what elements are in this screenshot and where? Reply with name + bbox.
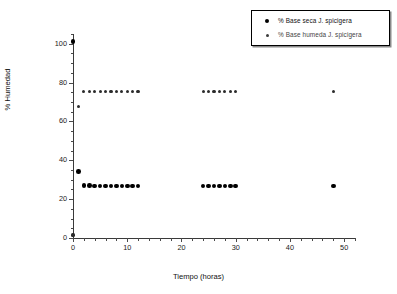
data-point-base-humeda: [82, 90, 85, 93]
data-point-base-seca: [76, 169, 81, 174]
y-tick-minor: [71, 189, 74, 190]
data-point-base-humeda: [223, 90, 226, 93]
x-tick-major: [181, 238, 182, 242]
x-tick-minor: [301, 238, 302, 241]
data-point-base-humeda: [218, 90, 221, 93]
data-point-base-seca: [206, 184, 211, 189]
legend-item-base-seca: % Base seca J. spicigera: [256, 14, 385, 28]
data-point-base-humeda: [212, 90, 215, 93]
y-tick-minor: [71, 53, 74, 54]
y-tick-minor: [71, 63, 74, 64]
data-point-base-seca: [228, 184, 233, 189]
y-axis-label: % Humedad: [3, 50, 12, 130]
data-point-base-humeda: [71, 233, 74, 236]
data-point-base-seca: [71, 39, 76, 44]
data-point-base-humeda: [229, 90, 232, 93]
data-point-base-humeda: [93, 90, 96, 93]
x-tick-minor: [84, 238, 85, 241]
data-point-base-humeda: [332, 90, 335, 93]
data-point-base-seca: [130, 184, 135, 189]
y-tick-minor: [71, 228, 74, 229]
x-tick-minor: [171, 238, 172, 241]
data-point-base-humeda: [115, 90, 118, 93]
data-point-base-humeda: [136, 90, 139, 93]
data-point-base-humeda: [109, 90, 112, 93]
y-tick-minor: [71, 34, 74, 35]
x-tick-minor: [279, 238, 280, 241]
y-tick-label: 80: [41, 79, 67, 87]
x-tick-minor: [160, 238, 161, 241]
y-tick-major: [69, 199, 73, 200]
data-point-base-humeda: [99, 90, 102, 93]
x-tick-major: [236, 238, 237, 242]
y-tick-minor: [71, 141, 74, 142]
data-point-base-seca: [125, 184, 130, 189]
data-point-base-humeda: [120, 90, 123, 93]
data-point-base-seca: [109, 184, 114, 189]
x-tick-minor: [257, 238, 258, 241]
x-tick-minor: [355, 238, 356, 241]
y-tick-minor: [71, 92, 74, 93]
x-tick-major: [344, 238, 345, 242]
chart-figure: % Base seca J. spicigera % Base humeda J…: [0, 0, 397, 294]
y-tick-minor: [71, 180, 74, 181]
x-tick-minor: [268, 238, 269, 241]
data-point-base-seca: [201, 184, 206, 189]
data-point-base-humeda: [88, 90, 91, 93]
y-tick-minor: [71, 131, 74, 132]
data-point-base-humeda: [207, 90, 210, 93]
data-point-base-humeda: [234, 90, 237, 93]
x-tick-minor: [322, 238, 323, 241]
y-tick-major: [69, 121, 73, 122]
y-tick-label: 20: [41, 195, 67, 203]
y-tick-minor: [71, 219, 74, 220]
y-axis-line: [73, 34, 74, 238]
data-point-base-seca: [114, 184, 119, 189]
data-point-base-humeda: [202, 90, 205, 93]
data-point-base-seca: [331, 184, 336, 189]
y-tick-minor: [71, 73, 74, 74]
x-tick-minor: [149, 238, 150, 241]
data-point-base-humeda: [131, 90, 134, 93]
y-tick-minor: [71, 209, 74, 210]
x-axis-label: Tiempo (horas): [0, 272, 397, 281]
y-tick-major: [69, 83, 73, 84]
x-tick-minor: [95, 238, 96, 241]
data-point-base-seca: [120, 184, 125, 189]
y-tick-minor: [71, 170, 74, 171]
y-tick-minor: [71, 151, 74, 152]
y-tick-label: 60: [41, 117, 67, 125]
x-tick-major: [73, 238, 74, 242]
data-point-base-seca: [223, 184, 228, 189]
x-tick-label: 30: [224, 244, 248, 252]
data-point-base-seca: [103, 184, 108, 189]
data-point-base-seca: [92, 184, 97, 189]
x-tick-label: 10: [115, 244, 139, 252]
data-point-base-seca: [233, 184, 238, 189]
legend-label-base-seca: % Base seca J. spicigera: [278, 14, 352, 28]
data-point-base-humeda: [104, 90, 107, 93]
data-point-base-humeda: [77, 105, 80, 108]
y-tick-label: 100: [41, 40, 67, 48]
x-tick-minor: [192, 238, 193, 241]
data-point-base-seca: [212, 184, 217, 189]
data-point-base-seca: [87, 183, 92, 188]
y-tick-label: 40: [41, 156, 67, 164]
legend-marker-dry-icon: [256, 19, 278, 23]
x-tick-minor: [138, 238, 139, 241]
data-point-base-humeda: [126, 90, 129, 93]
y-tick-minor: [71, 102, 74, 103]
y-tick-major: [69, 160, 73, 161]
y-tick-minor: [71, 112, 74, 113]
x-tick-label: 50: [332, 244, 356, 252]
data-point-base-seca: [82, 183, 87, 188]
y-tick-label: 0: [41, 234, 67, 242]
data-point-base-seca: [136, 184, 141, 189]
x-tick-label: 20: [169, 244, 193, 252]
x-tick-minor: [225, 238, 226, 241]
x-tick-major: [127, 238, 128, 242]
x-tick-minor: [312, 238, 313, 241]
x-tick-label: 0: [61, 244, 85, 252]
data-point-base-seca: [98, 184, 103, 189]
x-tick-minor: [116, 238, 117, 241]
